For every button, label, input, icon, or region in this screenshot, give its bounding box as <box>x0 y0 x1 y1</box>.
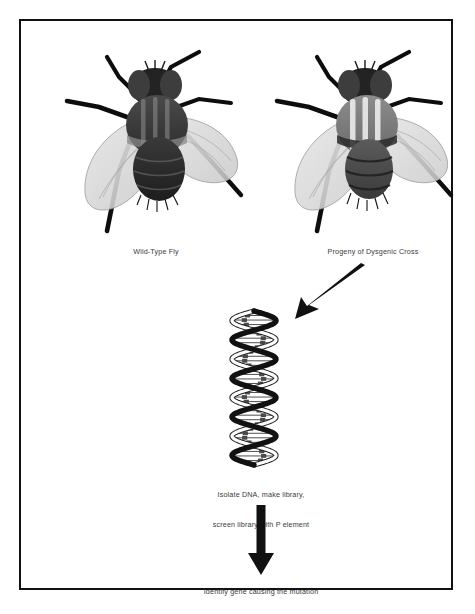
fly-eye-right <box>370 70 392 100</box>
fly-eye-left <box>128 70 150 100</box>
fly-eye-right <box>160 70 182 100</box>
step-identify-gene-text: Identify gene causing the mutation <box>156 587 366 597</box>
arrow-vertical-shape <box>248 505 274 575</box>
dna-base-mark <box>261 377 266 381</box>
dna-base-mark <box>242 318 247 322</box>
fly-eye-left <box>338 70 360 100</box>
arrow-vertical-down <box>243 505 279 577</box>
dna-base-mark <box>261 454 266 458</box>
dna-base-mark <box>261 336 266 340</box>
fly-mutant-illustration <box>269 43 464 238</box>
figure-canvas: Wild-Type Fly Progeny of Dysgenic Cross … <box>0 0 475 614</box>
label-wild-type-fly: Wild-Type Fly <box>71 247 241 257</box>
dna-base-mark <box>261 413 266 417</box>
label-progeny-dysgenic-cross: Progeny of Dysgenic Cross <box>283 247 463 257</box>
figure-border-frame: Wild-Type Fly Progeny of Dysgenic Cross … <box>19 19 453 590</box>
dna-base-mark <box>242 436 247 440</box>
fly-abdomen <box>133 137 185 201</box>
fly-antennae <box>145 60 165 71</box>
fly-antennae <box>355 60 375 71</box>
dna-base-mark <box>242 395 247 399</box>
fly-wildtype-illustration <box>59 43 254 238</box>
dna-double-helix <box>209 305 299 473</box>
step-isolate-line-1: Isolate DNA, make library, <box>166 490 356 500</box>
dna-base-mark <box>242 359 247 363</box>
arrow-diagonal-shape <box>295 263 365 319</box>
